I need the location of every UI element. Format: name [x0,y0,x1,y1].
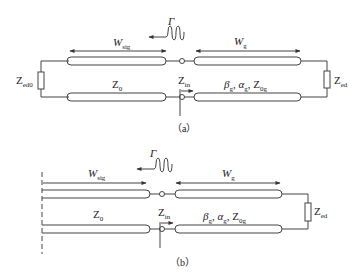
label-wg: Wg [234,35,247,50]
label-gamma: Γ [149,147,157,159]
wave-icon [166,26,184,40]
line-segment [67,93,166,101]
resistor-zed-icon [305,203,311,221]
label-params: βg, αg, Z0g [223,78,268,93]
label-wsig: Wsig [88,167,106,182]
line-segment [42,225,150,233]
label-zed0: Zed0 [16,74,33,89]
wave-icon [154,158,172,172]
line-segment [194,93,301,101]
label-z0: Z0 [112,78,123,93]
transmission-line-diagram: Wsig Γ Wg Zed0 Z0 Zin βg, αg, Z0g Zed （a… [0,0,358,279]
resistor-zed-icon [324,71,330,88]
terminal-icon [160,192,165,197]
label-params: βg, αg, Z0g [202,210,247,225]
label-wg: Wg [222,167,235,182]
line-segment [194,57,301,65]
caption-b: （b） [170,257,195,268]
wire [41,89,69,97]
label-z0: Z0 [93,208,104,223]
label-wsig: Wsig [113,36,131,51]
line-segment [175,190,282,198]
figure-b [42,158,311,254]
label-gamma: Γ [167,15,175,27]
label-zed: Zed [314,205,328,220]
line-segment [175,225,282,233]
line-segment [67,57,166,65]
label-zed: Zed [334,74,348,89]
line-segment [42,190,150,198]
figure-a [38,26,330,116]
resistor-zed0-icon [38,72,44,89]
label-zin: Zin [178,74,191,89]
wire [41,61,69,72]
label-zin: Zin [158,206,171,221]
terminal-icon [180,59,185,64]
caption-a: （a） [172,123,196,134]
